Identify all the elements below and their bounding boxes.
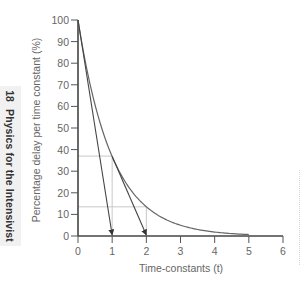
x-tick-label: 6 [280, 245, 286, 257]
y-tick-label: 20 [57, 187, 69, 199]
decay-chart: 01020304050607080901000123456 [0, 0, 302, 287]
x-tick-label: 4 [212, 245, 218, 257]
x-tick-label: 2 [143, 245, 149, 257]
x-tick-label: 3 [178, 245, 184, 257]
x-tick-label: 1 [109, 245, 115, 257]
y-tick-label: 60 [57, 100, 69, 112]
data-series [78, 20, 249, 235]
y-tick-label: 70 [57, 79, 69, 91]
y-tick-label: 90 [57, 36, 69, 48]
exponential-curve [78, 20, 249, 235]
y-tick-label: 50 [57, 122, 69, 134]
x-tick-label: 5 [246, 245, 252, 257]
y-tick-label: 40 [57, 144, 69, 156]
y-tick-label: 0 [63, 230, 69, 242]
tangent-arrow [112, 157, 146, 235]
tangent-arrow [78, 20, 112, 235]
y-tick-label: 30 [57, 165, 69, 177]
y-tick-label: 10 [57, 208, 69, 220]
y-tick-label: 80 [57, 57, 69, 69]
y-tick-label: 100 [51, 14, 69, 26]
x-tick-label: 0 [75, 245, 81, 257]
